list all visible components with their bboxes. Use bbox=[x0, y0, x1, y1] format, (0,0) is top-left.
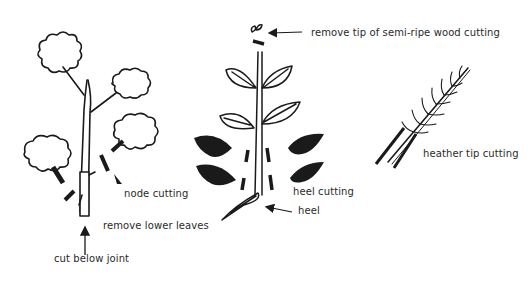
tip-leaves bbox=[251, 25, 262, 32]
label-remove-lower-leaves: remove lower leaves bbox=[103, 220, 209, 231]
heel-arrow-icon bbox=[267, 207, 292, 212]
leaf-cluster-left bbox=[24, 135, 71, 171]
label-heel-cutting: heel cutting bbox=[293, 186, 354, 197]
heel-stem bbox=[255, 52, 262, 195]
leaf-cluster-top bbox=[38, 32, 82, 72]
leaf-upper-right bbox=[262, 66, 292, 88]
cut-section bbox=[80, 172, 89, 216]
label-node-cutting: node cutting bbox=[124, 188, 188, 199]
leaf-cluster-right-upper bbox=[112, 68, 151, 98]
removed-leaf-4 bbox=[290, 162, 324, 183]
cuttings-illustration bbox=[0, 0, 528, 282]
label-cut-below-joint: cut below joint bbox=[54, 253, 129, 264]
cut-marks-heather bbox=[376, 128, 416, 168]
heel bbox=[222, 193, 259, 220]
removed-leaf-3 bbox=[288, 134, 324, 155]
remove-tip-arrow-icon bbox=[270, 32, 302, 33]
label-heather-tip-cutting: heather tip cutting bbox=[423, 148, 519, 159]
removed-leaf-1 bbox=[194, 136, 232, 157]
heel-cutting-drawing bbox=[220, 25, 300, 220]
leaf-mid-right bbox=[262, 102, 300, 124]
removed-leaf-2 bbox=[196, 165, 236, 186]
removed-leaves bbox=[194, 134, 324, 186]
label-heel: heel bbox=[298, 205, 320, 216]
label-remove-tip: remove tip of semi-ripe wood cutting bbox=[311, 27, 500, 38]
leaf-mid-left bbox=[220, 114, 254, 129]
node-arrow-icon bbox=[114, 174, 122, 184]
leaf-upper-left bbox=[226, 69, 256, 88]
